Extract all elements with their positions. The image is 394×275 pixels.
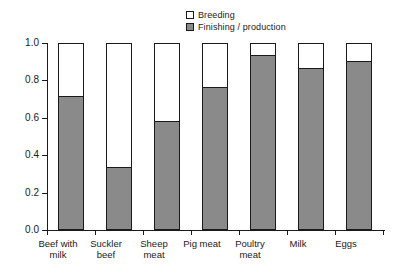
plot-area <box>47 43 384 230</box>
bar-stack <box>346 43 372 230</box>
bar-stack <box>202 43 228 230</box>
y-tick-label-1: 1.0 <box>25 37 39 48</box>
bar-segment-finishing <box>59 96 83 229</box>
x-tick-1 <box>95 230 96 235</box>
legend-item-finishing: Finishing / production <box>186 22 286 32</box>
x-tick-2 <box>143 230 144 235</box>
x-tick-4 <box>239 230 240 235</box>
bar-stack <box>106 43 132 230</box>
bar-segment-finishing <box>299 68 323 229</box>
y-tick-label-2: 0.8 <box>25 74 39 85</box>
chart-legend: Breeding Finishing / production <box>186 10 286 32</box>
bar-segment-finishing <box>347 61 371 229</box>
bar-segment-finishing <box>251 55 275 229</box>
y-tick-label-6: 0.0 <box>25 224 39 235</box>
bar-segment-finishing <box>203 87 227 229</box>
bar-stack <box>58 43 84 230</box>
x-label-eggs: Eggs <box>314 238 378 249</box>
legend-label-finishing: Finishing / production <box>198 22 286 32</box>
bar-segment-finishing <box>107 167 131 229</box>
x-tick-3 <box>191 230 192 235</box>
x-tick-0 <box>47 230 48 235</box>
bar-stack <box>298 43 324 230</box>
legend-item-breeding: Breeding <box>186 10 286 20</box>
x-tick-6 <box>335 230 336 235</box>
y-tick-label-5: 0.2 <box>25 187 39 198</box>
legend-swatch-breeding-icon <box>186 11 194 19</box>
y-tick-label-4: 0.4 <box>25 149 39 160</box>
stacked-bar-chart: Breeding Finishing / production 1.0 0.8 … <box>0 0 394 275</box>
bar-stack <box>154 43 180 230</box>
x-tick-7 <box>383 230 384 235</box>
bar-segment-finishing <box>155 121 179 229</box>
y-tick-label-3: 0.6 <box>25 112 39 123</box>
bar-stack <box>250 43 276 230</box>
legend-swatch-finishing-icon <box>186 23 194 31</box>
legend-label-breeding: Breeding <box>198 10 235 20</box>
x-tick-5 <box>287 230 288 235</box>
